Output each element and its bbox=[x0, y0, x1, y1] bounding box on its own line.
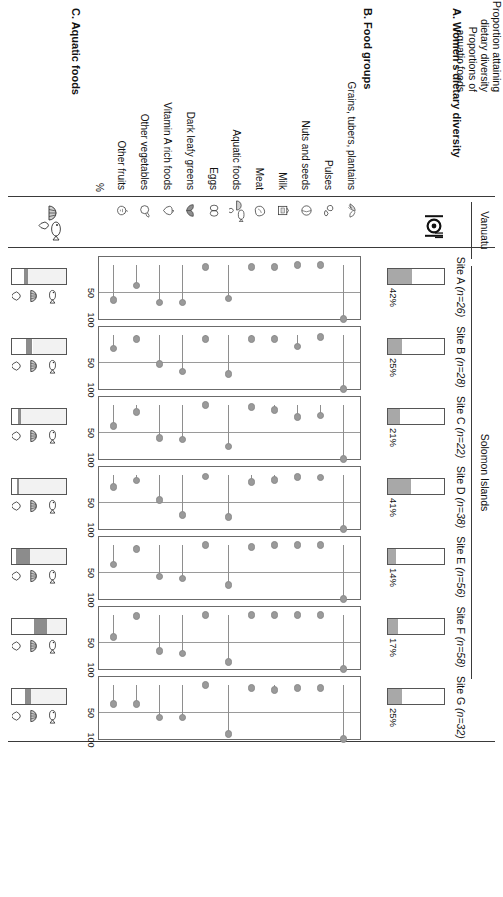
axis-tick-50: 50 bbox=[86, 424, 96, 442]
site-label: Site D bbox=[455, 466, 467, 498]
lollipop-stem bbox=[113, 265, 114, 300]
dietary-diversity-bar-c bbox=[387, 408, 445, 425]
dietary-diversity-bar-a bbox=[387, 268, 445, 285]
site-sample-size: (n=58) bbox=[455, 637, 467, 668]
shellfish-icon bbox=[28, 639, 41, 654]
lollipop-stem bbox=[182, 685, 183, 717]
dietary-diversity-percent-c: 21% bbox=[388, 428, 399, 447]
dietary-diversity-bar-fill bbox=[388, 339, 402, 354]
aquatic-segment-finfish bbox=[47, 619, 66, 634]
lollipop-dot bbox=[156, 496, 164, 504]
axis-tick-50: 50 bbox=[86, 284, 96, 302]
food-group-chart-d bbox=[98, 466, 361, 530]
lollipop-dot bbox=[225, 443, 233, 451]
chart-reference-line-50 bbox=[99, 642, 360, 643]
food-group-chart-f bbox=[98, 606, 361, 670]
lollipop-stem bbox=[182, 615, 183, 653]
shellfish-icon bbox=[28, 499, 41, 514]
lollipop-dot bbox=[271, 263, 279, 271]
plate-cutlery-icon bbox=[421, 213, 447, 239]
lollipop-dot bbox=[271, 611, 279, 619]
lollipop-dot bbox=[248, 335, 256, 343]
panel-a-row-label-line1: Proportion attaining bbox=[491, 0, 503, 92]
lollipop-dot bbox=[179, 299, 187, 307]
aquatic-segment-finfish bbox=[19, 479, 66, 494]
food-group-chart-b bbox=[98, 326, 361, 390]
aquatic-foods-bar-g bbox=[11, 688, 67, 705]
dietary-diversity-bar-fill bbox=[388, 689, 402, 704]
site-sample-size: (n=26) bbox=[455, 287, 467, 318]
lollipop-dot bbox=[110, 422, 118, 430]
other-fruits-icon bbox=[116, 203, 129, 218]
aquatic-segment-other-aquatic bbox=[12, 269, 24, 284]
site-header-b: Site B (n=28) bbox=[455, 326, 467, 388]
food-group-label: Dark leafy greens bbox=[185, 14, 196, 190]
lollipop-dot bbox=[340, 315, 348, 323]
site-sample-size: (n=56) bbox=[455, 567, 467, 598]
aquatic-foods-legend-icon-cluster bbox=[37, 202, 65, 242]
dietary-diversity-bar-d bbox=[387, 478, 445, 495]
lollipop-dot bbox=[271, 686, 279, 694]
lollipop-stem bbox=[343, 335, 344, 389]
lollipop-dot bbox=[248, 263, 256, 271]
aquatic-segment-finfish bbox=[31, 689, 66, 704]
lollipop-dot bbox=[248, 611, 256, 619]
site-label: Site E bbox=[455, 536, 467, 567]
food-group-label: Other vegetables bbox=[139, 14, 150, 190]
aquatic-segment-shellfish bbox=[16, 549, 30, 564]
lollipop-dot bbox=[179, 650, 187, 658]
lollipop-dot bbox=[225, 730, 233, 738]
axis-tick-50: 50 bbox=[86, 494, 96, 512]
dietary-diversity-bar-fill bbox=[388, 619, 398, 634]
lollipop-dot bbox=[202, 681, 210, 689]
aquatic-segment-other-aquatic bbox=[12, 619, 34, 634]
lollipop-dot bbox=[179, 368, 187, 376]
finfish-icon bbox=[46, 359, 59, 374]
lollipop-dot bbox=[133, 545, 141, 553]
site-header-e: Site E (n=56) bbox=[455, 536, 467, 598]
lollipop-dot bbox=[225, 513, 233, 521]
lollipop-dot bbox=[110, 700, 118, 708]
figure-canvas: Vanuatu Solomon Islands A. Women's dieta… bbox=[0, 0, 503, 897]
meat-icon bbox=[254, 203, 267, 218]
finfish-icon bbox=[46, 429, 59, 444]
axis-tick-100: 100 bbox=[86, 591, 96, 609]
other-aquatic-icon bbox=[12, 709, 25, 724]
lollipop-dot bbox=[294, 684, 302, 692]
lollipop-dot bbox=[156, 573, 164, 581]
other-aquatic-icon bbox=[12, 569, 25, 584]
lollipop-dot bbox=[110, 345, 118, 353]
food-group-label: Nuts and seeds bbox=[300, 14, 311, 190]
lollipop-stem bbox=[159, 405, 160, 438]
pulses-icon bbox=[323, 203, 336, 218]
finfish-icon bbox=[46, 709, 59, 724]
aquatic-foods-bar-d bbox=[11, 478, 67, 495]
lollipop-dot bbox=[317, 474, 325, 482]
lollipop-dot bbox=[248, 478, 256, 486]
dietary-diversity-bar-fill bbox=[388, 549, 396, 564]
finfish-icon bbox=[46, 499, 59, 514]
site-sample-size: (n=28) bbox=[455, 357, 467, 388]
lollipop-stem bbox=[228, 545, 229, 585]
aquatic-foods-bar-c bbox=[11, 408, 67, 425]
site-sample-size: (n=38) bbox=[455, 498, 467, 529]
lollipop-dot bbox=[340, 665, 348, 673]
grains-tubers-plantains-icon bbox=[346, 203, 359, 218]
lollipop-stem bbox=[182, 265, 183, 302]
lollipop-dot bbox=[133, 700, 141, 708]
lollipop-dot bbox=[225, 370, 233, 378]
lollipop-dot bbox=[271, 335, 279, 343]
lollipop-dot bbox=[133, 282, 141, 290]
lollipop-dot bbox=[271, 541, 279, 549]
chart-reference-line-50 bbox=[99, 712, 360, 713]
other-aquatic-icon bbox=[12, 499, 25, 514]
dietary-diversity-bar-f bbox=[387, 618, 445, 635]
lollipop-stem bbox=[343, 475, 344, 529]
axis-tick-50: 50 bbox=[86, 354, 96, 372]
milk-icon bbox=[277, 203, 290, 218]
region-rule-solomon bbox=[471, 266, 472, 679]
lollipop-stem bbox=[343, 405, 344, 459]
lollipop-dot bbox=[202, 263, 210, 271]
lollipop-dot bbox=[317, 412, 325, 420]
lollipop-dot bbox=[133, 612, 141, 620]
